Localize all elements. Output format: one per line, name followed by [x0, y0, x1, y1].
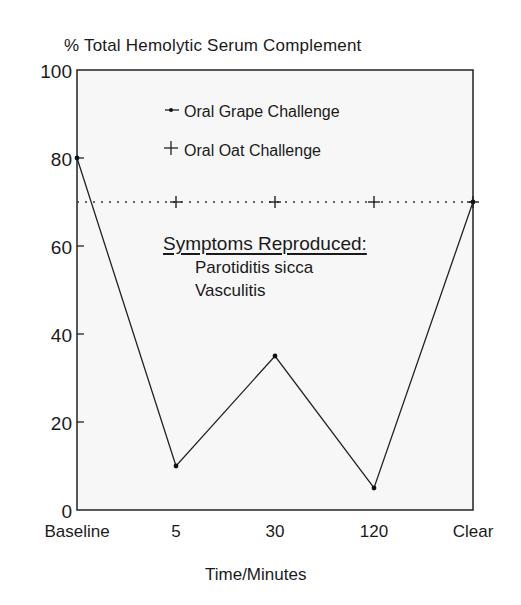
- legend-oat-label: Oral Oat Challenge: [184, 142, 321, 160]
- plot-frame: [77, 70, 473, 510]
- plot-area: [0, 0, 521, 605]
- annotation-item-parotiditis: Parotiditis sicca: [195, 258, 313, 278]
- legend-grape-label: Oral Grape Challenge: [184, 103, 340, 121]
- annotation-heading: Symptoms Reproduced:: [163, 233, 367, 255]
- annotation-item-vasculitis: Vasculitis: [195, 281, 266, 301]
